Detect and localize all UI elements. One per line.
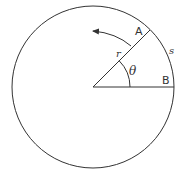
point-a-label: A bbox=[135, 25, 143, 38]
radius-label: r bbox=[116, 48, 122, 59]
arc-length-label: s bbox=[169, 45, 174, 56]
point-b-label: B bbox=[162, 74, 170, 87]
radius-line-oa bbox=[93, 30, 150, 87]
angle-label: θ bbox=[129, 64, 137, 78]
direction-arrow-icon bbox=[93, 31, 131, 46]
circle-diagram: A B r θ s bbox=[0, 0, 185, 176]
